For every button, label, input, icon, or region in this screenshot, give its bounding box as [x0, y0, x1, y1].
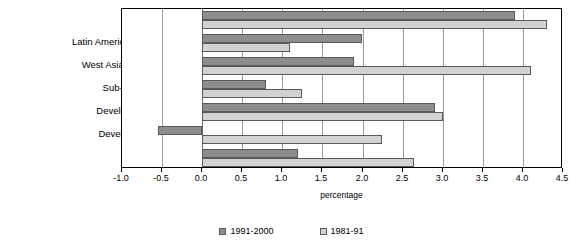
- x-tick-5: [321, 168, 322, 172]
- bar-4-1: [202, 112, 443, 121]
- x-tick-label-1: -0.5: [141, 173, 181, 184]
- chart-legend: 1991-2000 1981-91: [0, 226, 583, 236]
- x-tick-4: [281, 168, 282, 172]
- chart-figure: Asia & PacificLatin America & CaribbeanW…: [0, 0, 583, 252]
- legend-label-1: 1981-91: [331, 226, 364, 236]
- legend-label-0: 1991-2000: [230, 226, 273, 236]
- bar-2-1: [202, 66, 531, 75]
- gridline-3.0: [443, 9, 444, 167]
- x-axis-title: percentage: [121, 190, 562, 200]
- bar-6-0: [202, 149, 298, 158]
- bar-5-0: [158, 126, 202, 135]
- gridline-3.5: [483, 9, 484, 167]
- x-tick-label-2: 0.0: [181, 173, 221, 184]
- legend-item-1: 1981-91: [320, 226, 364, 236]
- x-tick-label-0: -1.0: [101, 173, 141, 184]
- x-tick-7: [402, 168, 403, 172]
- x-tick-label-10: 4.0: [502, 173, 542, 184]
- gridline-4.0: [523, 9, 524, 167]
- x-tick-label-3: 0.5: [221, 173, 261, 184]
- bar-6-1: [202, 158, 414, 167]
- x-tick-8: [442, 168, 443, 172]
- x-tick-10: [522, 168, 523, 172]
- gridline-2.5: [403, 9, 404, 167]
- bar-1-0: [202, 34, 362, 43]
- plot-area: [121, 8, 562, 168]
- x-tick-label-11: 4.5: [542, 173, 582, 184]
- bar-4-0: [202, 103, 435, 112]
- x-tick-1: [161, 168, 162, 172]
- x-tick-9: [482, 168, 483, 172]
- x-tick-label-9: 3.5: [462, 173, 502, 184]
- bar-3-0: [202, 80, 266, 89]
- x-tick-label-6: 2.0: [342, 173, 382, 184]
- x-tick-label-5: 1.5: [301, 173, 341, 184]
- x-tick-6: [362, 168, 363, 172]
- bar-2-0: [202, 57, 354, 66]
- bar-1-1: [202, 43, 290, 52]
- x-tick-3: [241, 168, 242, 172]
- x-tick-11: [562, 168, 563, 172]
- x-axis: -1.0-0.50.00.51.01.52.02.53.03.54.04.5: [121, 168, 562, 188]
- legend-swatch-1991-2000-icon: [219, 228, 226, 235]
- x-tick-0: [121, 168, 122, 172]
- gridline--0.5: [162, 9, 163, 167]
- x-tick-2: [201, 168, 202, 172]
- legend-item-0: 1991-2000: [219, 226, 273, 236]
- bar-5-1: [202, 135, 382, 144]
- bar-0-0: [202, 11, 515, 20]
- x-tick-label-8: 3.0: [422, 173, 462, 184]
- legend-swatch-1981-91-icon: [320, 228, 327, 235]
- x-tick-label-4: 1.0: [261, 173, 301, 184]
- x-tick-label-7: 2.5: [382, 173, 422, 184]
- bar-3-1: [202, 89, 302, 98]
- bar-0-1: [202, 20, 547, 29]
